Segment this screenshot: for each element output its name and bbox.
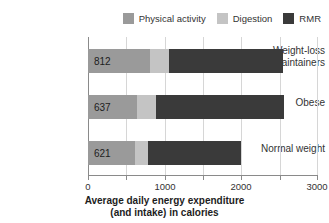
bar-segment-rmr[interactable]: [156, 95, 284, 119]
x-axis-tick-label-1000: 1000: [154, 181, 175, 192]
bar-weight-loss-maintainers[interactable]: 812: [88, 49, 283, 73]
tick-mark-2000: [241, 176, 242, 180]
bar-segment-physical-activity[interactable]: 637: [88, 95, 137, 119]
legend-item-rmr[interactable]: RMR: [283, 13, 321, 24]
legend-label-rmr: RMR: [299, 13, 321, 24]
bar-value-label: 637: [94, 102, 111, 113]
x-axis-title: Average daily energy expenditure (and in…: [0, 195, 329, 219]
bar-segment-physical-activity[interactable]: 621: [88, 141, 135, 165]
x-axis-tick-label-2000: 2000: [230, 181, 251, 192]
tick-mark-1000: [165, 176, 166, 180]
x-axis-ticks: 0 1000 2000 3000: [88, 176, 318, 194]
bar-segment-rmr[interactable]: [169, 49, 283, 73]
bar-segment-rmr[interactable]: [148, 141, 241, 165]
tick-mark-2500: [280, 176, 281, 180]
legend-swatch-rmr: [283, 13, 294, 24]
x-axis-title-line1: Average daily energy expenditure: [85, 195, 245, 206]
gridline-3000: [317, 37, 318, 176]
tick-mark-500: [126, 176, 127, 180]
bar-normal-weight[interactable]: 621: [88, 141, 241, 165]
legend-item-digestion[interactable]: Digestion: [217, 13, 273, 24]
bar-segment-physical-activity[interactable]: 812: [88, 49, 150, 73]
tick-mark-1500: [203, 176, 204, 180]
legend-label-digestion: Digestion: [233, 13, 273, 24]
x-axis-tick-label-0: 0: [85, 181, 90, 192]
legend-swatch-digestion: [217, 13, 228, 24]
legend-label-physical-activity: Physical activity: [139, 13, 206, 24]
bar-obese[interactable]: 637: [88, 95, 284, 119]
legend-swatch-physical-activity: [123, 13, 134, 24]
bar-value-label: 812: [94, 56, 111, 67]
bar-segment-digestion[interactable]: [150, 49, 169, 73]
chart-legend: Physical activity Digestion RMR: [0, 10, 329, 26]
bar-value-label: 621: [94, 148, 111, 159]
bar-segment-digestion[interactable]: [137, 95, 156, 119]
x-axis-tick-label-3000: 3000: [306, 181, 327, 192]
legend-item-physical-activity[interactable]: Physical activity: [123, 13, 206, 24]
tick-mark-3000: [317, 176, 318, 180]
x-axis-title-line2: (and intake) in calories: [0, 207, 329, 219]
plot-area: 812 637 621: [88, 37, 318, 176]
tick-mark-0: [88, 176, 89, 180]
bar-segment-digestion[interactable]: [135, 141, 147, 165]
stacked-bar-chart: Physical activity Digestion RMR Weight-l…: [0, 0, 329, 223]
